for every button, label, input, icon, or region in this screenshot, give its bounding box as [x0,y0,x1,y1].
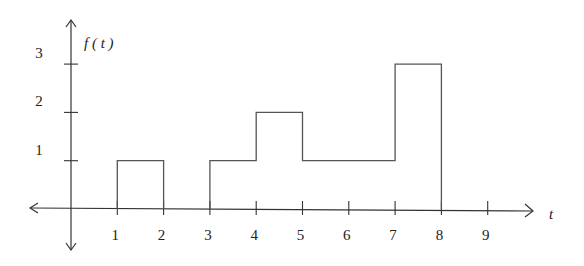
y-axis-label: f ( t ) [84,35,114,52]
x-tick-label: 4 [250,227,258,243]
y-tick-label: 2 [35,93,43,109]
y-tick-label: 1 [35,142,43,158]
x-axis-line [30,208,533,211]
y-tick-label: 3 [35,45,43,61]
function-graph [117,64,441,209]
axes [30,20,533,250]
x-tick-label: 7 [389,227,397,243]
x-tick-label: 1 [112,227,120,243]
ticks: 123456789123 [35,45,489,243]
x-tick-label: 2 [158,227,166,243]
step-function-line [117,64,441,209]
x-tick-label: 3 [204,227,212,243]
x-tick-label: 8 [436,227,444,243]
x-tick-label: 9 [482,227,490,243]
x-axis-label: t [549,206,554,222]
x-tick-label: 6 [343,227,351,243]
step-function-chart: 123456789123 f ( t ) t [0,0,584,266]
x-tick-label: 5 [297,227,305,243]
